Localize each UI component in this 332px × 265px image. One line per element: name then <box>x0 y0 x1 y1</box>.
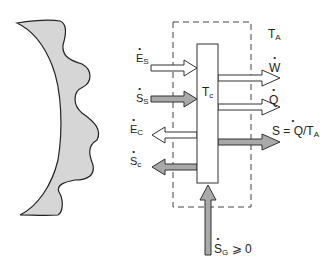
arrow-entropy-source-in <box>151 91 197 107</box>
label-entropy-cell: Sc <box>130 156 141 169</box>
label-heat: Q <box>269 94 278 106</box>
label-entropy-generation: SG ⩾ 0 <box>214 243 252 257</box>
label-cell-temperature: Tc <box>202 86 213 100</box>
label-entropy-source: SS <box>136 93 149 106</box>
label-ambient-temperature: TA <box>268 28 281 42</box>
cell-rectangle <box>197 44 218 183</box>
label-work: W <box>269 62 280 74</box>
source-shape <box>17 20 99 215</box>
label-energy-cell: EC <box>130 124 143 137</box>
arrow-energy-source-in <box>151 60 197 76</box>
label-energy-source: ES <box>136 53 149 66</box>
arrow-entropy-cell-out <box>152 159 197 175</box>
arrow-energy-cell-out <box>152 127 197 143</box>
arrow-entropy-out <box>218 134 280 150</box>
label-entropy-out: S = Q/TA <box>272 125 319 139</box>
